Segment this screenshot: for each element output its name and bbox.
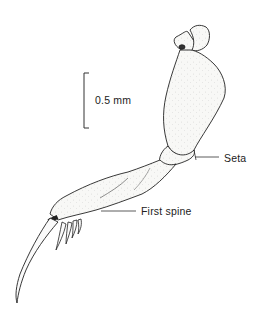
terminal-claw: [16, 218, 58, 303]
spines: [56, 219, 81, 250]
scale-bar: [84, 73, 89, 128]
basal-segment: [164, 50, 226, 156]
seta-leader: [194, 150, 219, 160]
limb-illustration: [0, 0, 259, 315]
first-spine-label: First spine: [141, 205, 192, 217]
seta-label: Seta: [224, 152, 246, 164]
scale-bar-label: 0.5 mm: [95, 94, 131, 106]
basal-knob: [174, 25, 209, 51]
